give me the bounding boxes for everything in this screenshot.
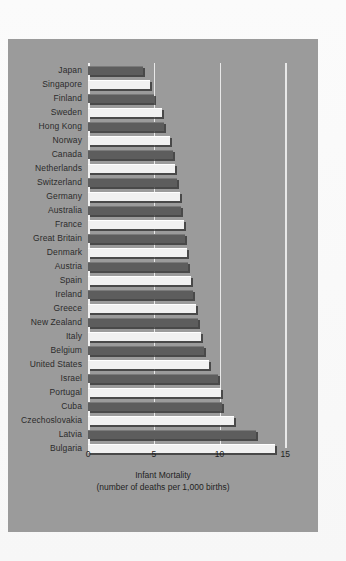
category-label: Italy	[66, 329, 82, 343]
bar-row: Great Britain	[88, 231, 298, 245]
bar-container	[88, 108, 162, 117]
bar-wrap	[88, 346, 204, 355]
category-label: Switzerland	[37, 175, 82, 189]
category-label: New Zealand	[31, 315, 82, 329]
bar-container	[88, 150, 173, 159]
bar-container	[88, 346, 204, 355]
bar-wrap	[88, 402, 222, 411]
bar-wrap	[88, 248, 187, 257]
category-label: Greece	[54, 301, 82, 315]
bar	[88, 332, 201, 341]
bar-wrap	[88, 360, 209, 369]
bar-container	[88, 388, 221, 397]
bar-rows: JapanSingaporeFinlandSwedenHong KongNorw…	[88, 63, 298, 448]
x-tick-15: 15	[281, 448, 290, 460]
bar-wrap	[88, 80, 150, 89]
bar-row: Latvia	[88, 427, 298, 441]
bar-wrap	[88, 136, 170, 145]
bar-wrap	[88, 262, 188, 271]
bar-wrap	[88, 318, 198, 327]
category-label: Norway	[53, 133, 82, 147]
bar	[88, 178, 177, 187]
bar-row: Switzerland	[88, 175, 298, 189]
bar	[88, 318, 198, 327]
x-axis-sublabel: (number of deaths per 1,000 births)	[8, 481, 318, 493]
bar-row: Singapore	[88, 77, 298, 91]
bar	[88, 346, 204, 355]
figure: JapanSingaporeFinlandSwedenHong KongNorw…	[0, 0, 346, 561]
bar-wrap	[88, 388, 221, 397]
bar-row: United States	[88, 357, 298, 371]
bar-container	[88, 262, 188, 271]
bar-wrap	[88, 206, 181, 215]
bar-row: Germany	[88, 189, 298, 203]
bar-container	[88, 248, 187, 257]
bar	[88, 276, 191, 285]
bar-row: Sweden	[88, 105, 298, 119]
bar-row: Canada	[88, 147, 298, 161]
bar-wrap	[88, 290, 193, 299]
category-label: Finland	[53, 91, 82, 105]
category-label: Czechoslovakia	[21, 413, 82, 427]
bar-container	[88, 416, 234, 425]
bar-row: Cuba	[88, 399, 298, 413]
bar-row: Australia	[88, 203, 298, 217]
bar	[88, 388, 221, 397]
bar-container	[88, 66, 143, 75]
bar	[88, 304, 196, 313]
x-tick-5: 5	[151, 448, 156, 460]
category-label: Ireland	[55, 287, 82, 301]
category-label: Belgium	[51, 343, 82, 357]
category-label: Canada	[52, 147, 82, 161]
category-label: United States	[30, 357, 82, 371]
bar-container	[88, 374, 218, 383]
bar	[88, 108, 162, 117]
bar-wrap	[88, 234, 185, 243]
bar-container	[88, 318, 198, 327]
bar-container	[88, 220, 184, 229]
bar-row: Ireland	[88, 287, 298, 301]
category-label: Germany	[46, 189, 82, 203]
bar-row: Norway	[88, 133, 298, 147]
bar-wrap	[88, 332, 201, 341]
bar-row: Greece	[88, 301, 298, 315]
category-label: Japan	[58, 63, 82, 77]
bar-row: Italy	[88, 329, 298, 343]
bar-wrap	[88, 164, 175, 173]
bar-container	[88, 122, 164, 131]
x-axis-label: Infant Mortality	[135, 470, 191, 480]
bar	[88, 136, 170, 145]
bar-wrap	[88, 416, 234, 425]
bar-wrap	[88, 192, 180, 201]
bar	[88, 234, 185, 243]
category-label: Netherlands	[35, 161, 82, 175]
bar-container	[88, 206, 181, 215]
category-label: Sweden	[51, 105, 82, 119]
category-label: Hong Kong	[39, 119, 82, 133]
bar-row: Spain	[88, 273, 298, 287]
bar-container	[88, 164, 175, 173]
bar	[88, 402, 222, 411]
bar	[88, 290, 193, 299]
bar-wrap	[88, 94, 154, 103]
bar	[88, 150, 173, 159]
bar-container	[88, 360, 209, 369]
bar	[88, 416, 234, 425]
bar-row: Finland	[88, 91, 298, 105]
bar-container	[88, 192, 180, 201]
bar-wrap	[88, 430, 256, 439]
bar-row: Belgium	[88, 343, 298, 357]
bar-row: New Zealand	[88, 315, 298, 329]
x-tick-10: 10	[215, 448, 224, 460]
bar	[88, 220, 184, 229]
bar-container	[88, 178, 177, 187]
bar-row: France	[88, 217, 298, 231]
x-tick-0: 0	[86, 448, 91, 460]
bar-row: Hong Kong	[88, 119, 298, 133]
bar	[88, 122, 164, 131]
bar-container	[88, 290, 193, 299]
bar-container	[88, 276, 191, 285]
bar-container	[88, 136, 170, 145]
bar-row: Japan	[88, 63, 298, 77]
bar-container	[88, 332, 201, 341]
